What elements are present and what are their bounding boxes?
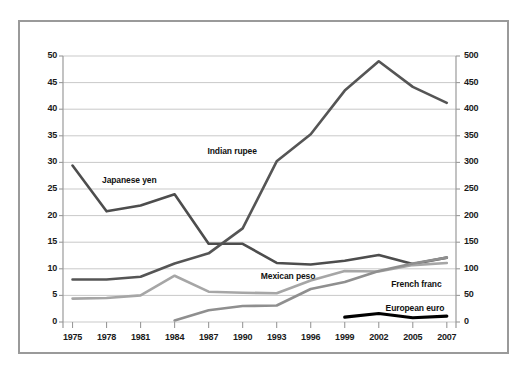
y-axis-tick-left-10: 10 xyxy=(29,263,57,273)
series-label-japanese-yen: Japanese yen xyxy=(102,175,157,185)
y-axis-tick-right-250: 250 xyxy=(464,183,492,193)
y-axis-tick-right-350: 350 xyxy=(464,130,492,140)
x-axis-tick-1981: 1981 xyxy=(125,332,157,342)
y-axis-tick-left-35: 35 xyxy=(29,130,57,140)
y-axis-tick-right-300: 300 xyxy=(464,156,492,166)
y-axis-tick-left-25: 25 xyxy=(29,183,57,193)
y-axis-tick-left-15: 15 xyxy=(29,236,57,246)
y-axis-tick-right-150: 150 xyxy=(464,236,492,246)
x-axis-tick-2002: 2002 xyxy=(363,332,395,342)
x-axis-tick-2007: 2007 xyxy=(431,332,463,342)
chart-figure: 0510152025303540455005010015020025030035… xyxy=(0,0,527,374)
x-axis-tick-1993: 1993 xyxy=(261,332,293,342)
x-axis-tick-1990: 1990 xyxy=(227,332,259,342)
x-axis-tick-2005: 2005 xyxy=(397,332,429,342)
line-chart-canvas xyxy=(0,0,527,374)
y-axis-tick-right-500: 500 xyxy=(464,50,492,60)
y-axis-tick-left-5: 5 xyxy=(29,289,57,299)
x-axis-tick-1999: 1999 xyxy=(329,332,361,342)
y-axis-tick-left-20: 20 xyxy=(29,210,57,220)
series-label-indian-rupee: Indian rupee xyxy=(207,146,256,156)
series-label-mexican-peso: Mexican peso xyxy=(261,271,316,281)
y-axis-tick-right-200: 200 xyxy=(464,210,492,220)
x-axis-tick-1975: 1975 xyxy=(57,332,89,342)
x-axis-tick-1996: 1996 xyxy=(295,332,327,342)
x-axis-tick-1987: 1987 xyxy=(193,332,225,342)
series-label-french-franc: French franc xyxy=(391,279,441,289)
series-line-european-euro xyxy=(345,313,447,317)
y-axis-tick-right-100: 100 xyxy=(464,263,492,273)
series-label-european-euro: European euro xyxy=(386,303,445,313)
y-axis-tick-right-450: 450 xyxy=(464,77,492,87)
y-axis-tick-left-0: 0 xyxy=(29,316,57,326)
y-axis-tick-right-400: 400 xyxy=(464,103,492,113)
series-line-indian-rupee xyxy=(73,61,447,279)
y-axis-tick-right-50: 50 xyxy=(464,289,492,299)
y-axis-tick-right-0: 0 xyxy=(464,316,492,326)
y-axis-tick-left-50: 50 xyxy=(29,50,57,60)
x-axis-tick-1978: 1978 xyxy=(91,332,123,342)
x-axis-tick-1984: 1984 xyxy=(159,332,191,342)
y-axis-tick-left-45: 45 xyxy=(29,77,57,87)
y-axis-tick-left-40: 40 xyxy=(29,103,57,113)
y-axis-tick-left-30: 30 xyxy=(29,156,57,166)
